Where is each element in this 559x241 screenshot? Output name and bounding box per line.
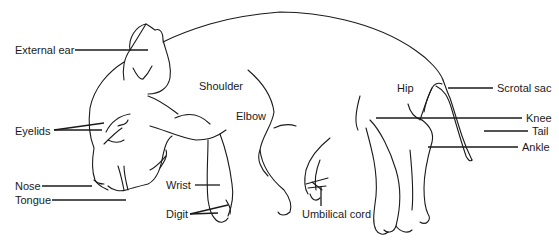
label-tail: Tail: [532, 125, 549, 137]
fetal-pig-illustration: [0, 0, 559, 241]
foreleg-rear-drawing: [248, 70, 296, 215]
label-scrotal-sac: Scrotal sac: [497, 82, 551, 94]
label-tongue: Tongue: [15, 194, 51, 206]
foreleg-drawing: [148, 96, 233, 222]
label-shoulder: Shoulder: [199, 80, 243, 92]
label-knee: Knee: [526, 112, 552, 124]
umbilical-drawing: [305, 138, 330, 200]
leader-eyelids-upper: [54, 123, 104, 130]
label-elbow: Elbow: [236, 110, 266, 122]
label-nose: Nose: [15, 180, 41, 192]
label-wrist: Wrist: [166, 179, 191, 191]
label-hip: Hip: [397, 82, 414, 94]
label-external-ear: External ear: [15, 44, 74, 56]
label-digit: Digit: [166, 208, 188, 220]
ear-drawing: [123, 24, 170, 94]
head-drawing: [89, 62, 172, 191]
label-eyelids: Eyelids: [15, 125, 50, 137]
label-umbilical-cord: Umbilical cord: [302, 208, 371, 220]
label-ankle: Ankle: [522, 141, 550, 153]
back-outline: [163, 12, 443, 80]
tail-drawing: [420, 80, 472, 161]
